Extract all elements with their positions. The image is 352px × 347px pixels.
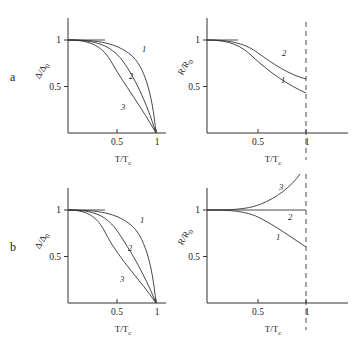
curve-label-3: 3 bbox=[120, 102, 125, 112]
curve-label-1: 1 bbox=[142, 44, 146, 54]
curve-label-2: 2 bbox=[128, 243, 133, 253]
x-axis-title-main: T/T bbox=[115, 324, 129, 334]
axis-lines bbox=[207, 188, 348, 303]
svg-text:Δ/Δ0: Δ/Δ0 bbox=[33, 230, 53, 252]
x-axis-title-sub: c bbox=[128, 329, 131, 337]
panel-b-right-resistance-plot: 1 0.5 0.5 1 3 2 1 R/R0 T/Tc bbox=[176, 174, 352, 347]
panel-a-right-svg: 1 0.5 0.5 1 2 1 R/R0 T/Tc bbox=[176, 0, 352, 174]
panel-a-left-gap-plot: 1 0.5 0.5 1 1 2 3 Δ/Δ0 T/Tc bbox=[0, 0, 176, 174]
x-tick-label-1: 1 bbox=[305, 307, 310, 317]
x-axis-title: T/Tc bbox=[265, 154, 282, 167]
curve-label-2: 2 bbox=[288, 212, 293, 222]
curve-label-1: 1 bbox=[281, 75, 285, 85]
x-axis-title: T/Tc bbox=[265, 324, 282, 337]
x-axis-title-main: T/T bbox=[265, 324, 279, 334]
x-axis-title: T/Tc bbox=[115, 324, 132, 337]
y-axis-title-resistance: R/R0 bbox=[176, 226, 196, 248]
y-axis-title-gap: Δ/Δ0 bbox=[33, 60, 53, 82]
figure-container: 1 0.5 0.5 1 1 2 3 Δ/Δ0 T/Tc bbox=[0, 0, 352, 347]
axis-lines bbox=[207, 18, 348, 133]
x-axis-title-main: T/T bbox=[265, 154, 279, 164]
y-tick-label-05: 0.5 bbox=[49, 252, 61, 262]
curve-3 bbox=[207, 174, 300, 210]
y-axis-title-gap: Δ/Δ0 bbox=[33, 230, 53, 252]
svg-text:R/R0: R/R0 bbox=[176, 226, 196, 248]
x-axis-title-sub: c bbox=[128, 159, 131, 167]
curve-label-2: 2 bbox=[282, 48, 287, 58]
panel-letter-b: b bbox=[10, 240, 16, 255]
curve-label-3: 3 bbox=[119, 274, 124, 284]
svg-text:R/R0: R/R0 bbox=[176, 56, 196, 78]
panel-b-left-gap-plot: 1 0.5 0.5 1 1 2 3 Δ/Δ0 T/Tc bbox=[0, 174, 176, 347]
curve-label-1: 1 bbox=[276, 232, 280, 242]
x-tick-label-1: 1 bbox=[155, 307, 160, 317]
x-tick-label-1: 1 bbox=[155, 137, 160, 147]
x-axis-title-sub: c bbox=[278, 159, 281, 167]
x-tick-label-05: 0.5 bbox=[111, 307, 123, 317]
axis-lines bbox=[68, 188, 166, 303]
panel-a-right-resistance-plot: 1 0.5 0.5 1 2 1 R/R0 T/Tc bbox=[176, 0, 352, 174]
y-tick-label-1: 1 bbox=[195, 35, 200, 45]
y-tick-label-1: 1 bbox=[195, 205, 200, 215]
x-tick-label-1: 1 bbox=[305, 137, 310, 147]
y-tick-label-05: 0.5 bbox=[49, 82, 61, 92]
y-tick-label-05: 0.5 bbox=[188, 252, 200, 262]
y-tick-label-1: 1 bbox=[56, 35, 61, 45]
y-axis-title-resistance: R/R0 bbox=[176, 56, 196, 78]
curve-2 bbox=[207, 40, 306, 79]
panel-a-left-svg: 1 0.5 0.5 1 1 2 3 Δ/Δ0 T/Tc bbox=[0, 0, 176, 174]
y-tick-label-1: 1 bbox=[56, 205, 61, 215]
x-axis-title-sub: c bbox=[278, 329, 281, 337]
x-axis-title-main: T/T bbox=[115, 154, 129, 164]
svg-text:Δ/Δ0: Δ/Δ0 bbox=[33, 60, 53, 82]
panel-b-left-svg: 1 0.5 0.5 1 1 2 3 Δ/Δ0 T/Tc bbox=[0, 174, 176, 347]
curve-label-3: 3 bbox=[278, 182, 283, 192]
curve-1 bbox=[207, 40, 306, 93]
panel-letter-a: a bbox=[10, 70, 15, 85]
x-axis-title: T/Tc bbox=[115, 154, 132, 167]
x-tick-label-05: 0.5 bbox=[252, 137, 264, 147]
curve-label-1: 1 bbox=[140, 215, 144, 225]
curve-label-2: 2 bbox=[129, 71, 134, 81]
axis-lines bbox=[68, 18, 166, 133]
y-tick-label-05: 0.5 bbox=[188, 82, 200, 92]
x-tick-label-05: 0.5 bbox=[111, 137, 123, 147]
panel-b-right-svg: 1 0.5 0.5 1 3 2 1 R/R0 T/Tc bbox=[176, 174, 352, 347]
x-tick-label-05: 0.5 bbox=[252, 307, 264, 317]
